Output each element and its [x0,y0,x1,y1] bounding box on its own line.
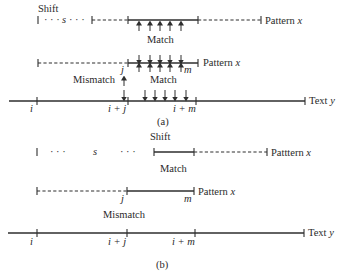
panel-b-caption: (b) [156,259,169,271]
panel-a-text-line: i i + j i + m Text y [9,95,335,114]
text-label: Text y [309,95,335,106]
down-arrows-icon [145,90,186,99]
panel-a-shift-label: Shift [38,3,59,14]
text-tick-i: i [30,236,33,247]
shift-dots-right: · · · [120,146,136,157]
panel-b: Shift · · · s · · · Patttern x Match Pat… [8,131,334,271]
text-label: Text y [308,227,334,238]
panel-b-shift-label: Shift [150,131,171,142]
panel-b-current-pattern: Pattern x j m [37,186,235,204]
shift-var: s [93,146,97,157]
panel-b-mismatch-label: Mismatch [103,209,146,220]
up-arrows-icon [139,23,181,31]
panel-b-text-line: i i + j i + m Text y [8,227,334,247]
panel-a: Shift · · · s · · · Pattern x Mat [9,3,335,128]
string-matching-figure: Shift · · · s · · · Pattern x Mat [0,0,340,279]
pattern-label: Pattern x [265,15,302,26]
shift-dots-left: · · · [44,14,60,25]
shift-dots-left: · · · [50,146,66,157]
pattern-label: Pattern x [198,186,235,197]
text-tick-i: i [30,103,33,114]
panel-b-match-label: Match [160,163,188,174]
text-tick-ij: i + j [108,236,126,247]
text-tick-im: i + m [173,103,196,114]
text-tick-im: i + m [172,236,195,247]
panel-a-match-label-lower: Match [150,74,178,85]
pattern-label: Patttern x [271,147,311,158]
panel-a-caption: (a) [157,116,169,128]
panel-a-match-label-upper: Match [147,34,175,45]
shift-dots-right: · · · [69,14,85,25]
pattern-label: Pattern x [203,57,240,68]
pattern-tick-m: m [184,193,192,204]
shift-var: s [62,14,66,25]
text-tick-ij: i + j [108,103,126,114]
pattern-tick-j: j [119,64,124,75]
panel-a-current-pattern: Pattern x j m [38,55,240,75]
pattern-tick-j: j [119,193,124,204]
pattern-tick-m: m [184,64,192,75]
figure-svg: Shift · · · s · · · Pattern x Mat [0,0,340,279]
panel-b-shifted-pattern: · · · s · · · Patttern x [37,146,311,158]
panel-a-shifted-pattern: · · · s · · · Pattern x [38,14,302,31]
panel-a-mismatch-label: Mismatch [73,74,116,85]
